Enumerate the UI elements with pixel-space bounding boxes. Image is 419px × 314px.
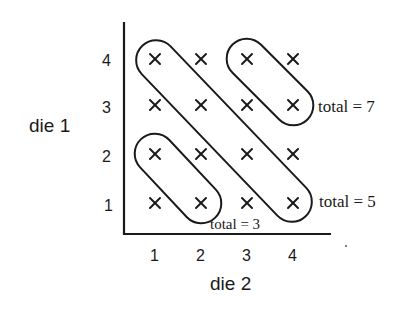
cross-icon (242, 198, 252, 208)
cross-icon (150, 149, 160, 159)
x-tick-1: 1 (150, 247, 159, 264)
cross-icon (150, 54, 160, 64)
y-tick-2: 2 (102, 148, 111, 165)
cross-icon (288, 198, 298, 208)
group-label-total-7: total = 7 (318, 97, 375, 116)
cross-icon (196, 198, 206, 208)
cross-icon (288, 100, 298, 110)
cross-icon (288, 149, 298, 159)
x-tick-3: 3 (242, 247, 251, 264)
dice-outcome-diagram: die 1 1 2 3 4 1 2 3 4 die 2 (0, 0, 419, 314)
group-label-total-5: total = 5 (319, 192, 376, 211)
cross-icon (196, 100, 206, 110)
group-label-total-3: total = 3 (210, 216, 260, 232)
y-tick-1: 1 (104, 197, 113, 214)
cross-icon (242, 100, 252, 110)
cross-icon (150, 100, 160, 110)
cross-icon (196, 149, 206, 159)
group-loop-total-7 (218, 30, 321, 133)
cross-icon (150, 198, 160, 208)
cross-icon (288, 54, 298, 64)
y-tick-3: 3 (102, 99, 111, 116)
scan-speck (345, 245, 347, 247)
cross-icon (196, 54, 206, 64)
y-axis-label: die 1 (29, 115, 70, 136)
outcome-markers (150, 54, 298, 208)
x-tick-4: 4 (288, 247, 297, 264)
x-axis-label: die 2 (210, 273, 251, 294)
x-tick-2: 2 (196, 247, 205, 264)
cross-icon (242, 149, 252, 159)
cross-icon (242, 54, 252, 64)
y-tick-4: 4 (102, 52, 111, 69)
